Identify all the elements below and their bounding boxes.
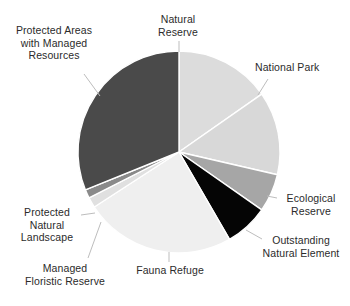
pie-label-national-park: National Park xyxy=(255,61,349,74)
pie-label-protected-areas-with-managed-resources: Protected Areas with Managed Resources xyxy=(2,24,106,62)
pie-chart: Protected Areas with Managed Resources N… xyxy=(0,0,350,306)
pie-label-outstanding-natural-element: Outstanding Natural Element xyxy=(252,234,350,259)
pie-label-ecological-reserve: Ecological Reserve xyxy=(272,192,350,217)
pie-label-protected-natural-landscape: Protected Natural Landscape xyxy=(4,206,90,244)
pie-label-fauna-refuge: Fauna Refuge xyxy=(125,264,215,277)
pie-label-managed-floristic-reserve: Managed Floristic Reserve xyxy=(16,262,114,287)
leader-line-national-park xyxy=(258,79,268,95)
pie-label-natural-reserve: Natural Reserve xyxy=(130,13,226,38)
pie-slice-group xyxy=(78,51,280,253)
leader-line-protected-areas-managed-resources xyxy=(84,74,100,96)
